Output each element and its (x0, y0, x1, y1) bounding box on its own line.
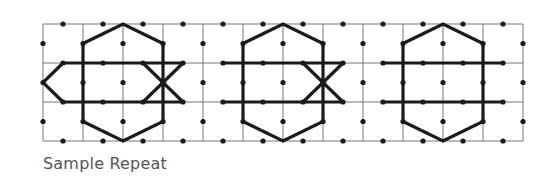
caption-label: Sample Repeat (43, 154, 167, 173)
pattern-diagram (0, 0, 542, 150)
repeat-pattern (43, 24, 503, 141)
